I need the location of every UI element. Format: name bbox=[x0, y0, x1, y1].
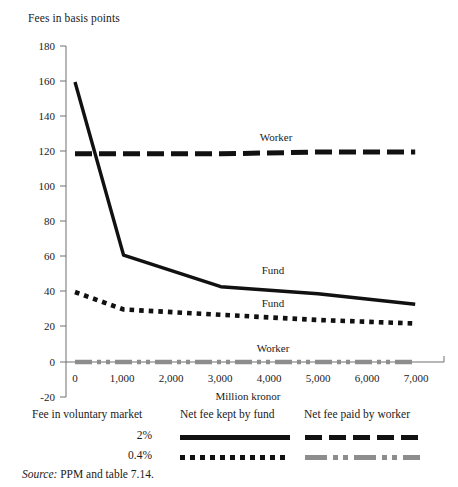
x-tick-label-2000: 2,000 bbox=[159, 372, 184, 384]
y-tick-label-100: 100 bbox=[39, 180, 56, 192]
figure-container: Fees in basis points 180 160 140 120 100… bbox=[0, 0, 458, 487]
legend-header-fee-market: Fee in voluntary market bbox=[32, 408, 142, 420]
legend-swatch-worker-2pct bbox=[305, 435, 420, 440]
x-tick-label-6000: 6,000 bbox=[355, 372, 380, 384]
y-tick-label-40: 40 bbox=[44, 285, 56, 297]
y-tick-label-20: 20 bbox=[44, 320, 56, 332]
legend-rate-2pct: 2% bbox=[32, 429, 152, 441]
series-line-fund-2 bbox=[75, 82, 415, 304]
y-tick-label-140: 140 bbox=[39, 110, 56, 122]
annotation-worker-top: Worker bbox=[260, 131, 293, 143]
series-line-worker-2 bbox=[75, 152, 415, 154]
y-tick-label-180: 180 bbox=[39, 40, 56, 52]
legend-swatch-fund-04pct bbox=[180, 455, 290, 460]
x-tick-label-1000: 1,000 bbox=[110, 372, 135, 384]
x-axis-title: Million kronor bbox=[215, 390, 280, 402]
y-tick-label-0: 0 bbox=[50, 356, 56, 368]
legend-header-net-fee-worker: Net fee paid by worker bbox=[304, 408, 410, 420]
source-note: Source: PPM and table 7.14. bbox=[22, 468, 154, 480]
legend-header-net-fee-fund: Net fee kept by fund bbox=[180, 408, 275, 420]
series-line-fund-04 bbox=[75, 292, 415, 324]
source-text: PPM and table 7.14. bbox=[57, 468, 153, 480]
x-tick-label-3000: 3,000 bbox=[208, 372, 233, 384]
chart-plot-area: 180 160 140 120 100 80 60 40 20 0 -20 0 … bbox=[0, 0, 458, 408]
x-tick-label-7000: 7,000 bbox=[404, 372, 429, 384]
y-tick-label-80: 80 bbox=[44, 215, 56, 227]
y-tick-label-160: 160 bbox=[39, 75, 56, 87]
y-tick-label-120: 120 bbox=[39, 145, 56, 157]
x-tick-label-5000: 5,000 bbox=[306, 372, 331, 384]
y-tick-label-60: 60 bbox=[44, 250, 56, 262]
x-tick-label-4000: 4,000 bbox=[257, 372, 282, 384]
annotation-worker-bottom: Worker bbox=[257, 342, 290, 354]
legend-rate-04pct: 0.4% bbox=[32, 449, 152, 461]
y-tick-label-neg20: -20 bbox=[40, 391, 55, 403]
x-tick-label-0: 0 bbox=[72, 372, 78, 384]
y-tick-marks bbox=[60, 46, 66, 397]
source-label: Source: bbox=[22, 468, 57, 480]
legend-swatch-worker-04pct bbox=[305, 455, 420, 460]
annotation-fund-lower: Fund bbox=[262, 297, 285, 309]
chart-legend: Fee in voluntary market Net fee kept by … bbox=[0, 408, 458, 460]
annotation-fund-upper: Fund bbox=[262, 264, 285, 276]
legend-swatch-fund-2pct bbox=[180, 435, 290, 440]
